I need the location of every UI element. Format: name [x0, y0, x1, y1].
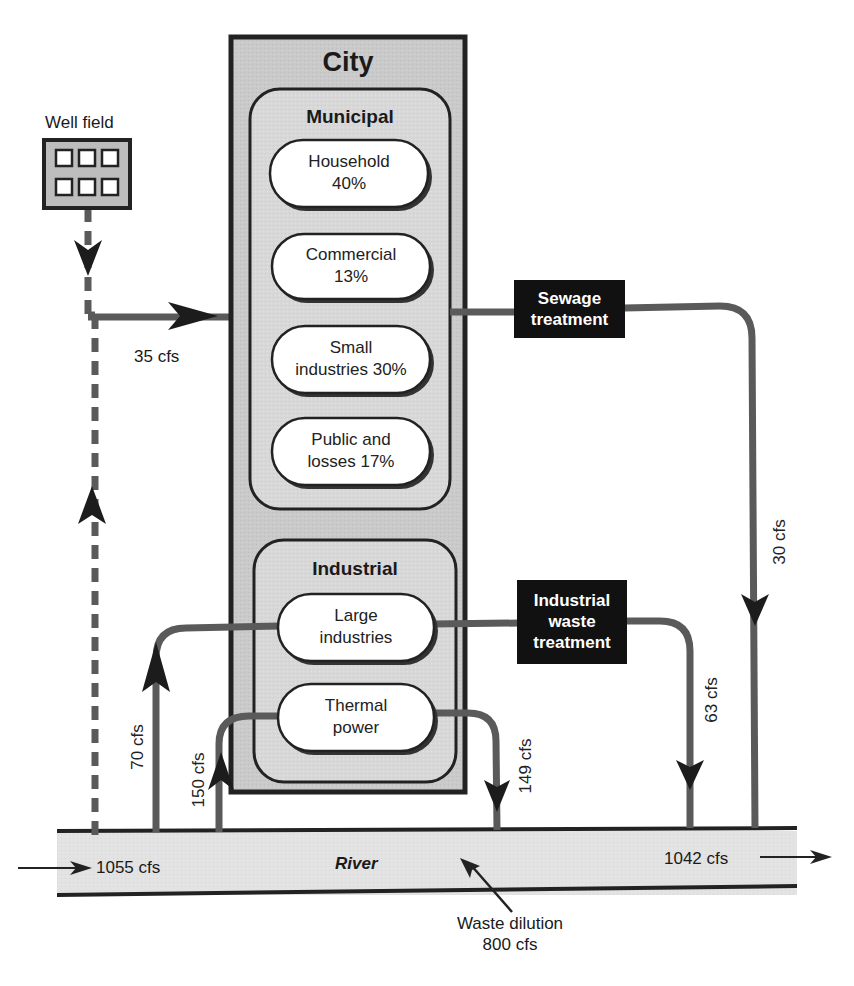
flow-river-to-large-industries: 70 cfs — [128, 717, 148, 777]
use-share: 40% — [270, 173, 428, 195]
use-name: Public and — [272, 429, 430, 451]
city-title: City — [231, 46, 465, 78]
municipal-title: Municipal — [250, 106, 450, 127]
use-name: Small — [272, 337, 430, 359]
use-name: Thermal — [278, 695, 434, 717]
use-share: 13% — [272, 266, 430, 288]
annotation-line: Waste dilution — [440, 913, 580, 934]
flow-thermal-to-river: 149 cfs — [516, 731, 536, 801]
water-flow-diagram — [0, 0, 854, 986]
use-name: Large — [278, 605, 434, 627]
thermal-power-label: Thermal power — [278, 695, 434, 739]
use-name: Household — [270, 151, 428, 173]
use-detail: power — [278, 717, 434, 739]
industrial-waste-treatment-label: Industrial waste treatment — [517, 590, 627, 653]
well-field-icon — [44, 140, 130, 208]
well-field-pipe — [88, 208, 95, 838]
flow-well-to-city: 35 cfs — [134, 346, 179, 367]
arrow-up-icon — [78, 486, 106, 524]
treatment-line: waste — [517, 611, 627, 632]
annotation-value: 800 cfs — [440, 934, 580, 955]
use-share: losses 17% — [272, 451, 430, 473]
well-field-label: Well field — [45, 112, 114, 133]
small-industries-label: Small industries 30% — [272, 337, 430, 381]
industrial-title: Industrial — [254, 558, 456, 579]
sewage-treatment-label: Sewage treatment — [514, 288, 625, 330]
river-outflow-label: 1042 cfs — [664, 848, 728, 869]
flow-sewage-to-river: 30 cfs — [770, 512, 790, 572]
waste-dilution-annotation: Waste dilution 800 cfs — [440, 913, 580, 955]
flow-river-to-thermal: 150 cfs — [189, 745, 209, 815]
treatment-line: Sewage — [514, 288, 625, 309]
household-label: Household 40% — [270, 151, 428, 195]
river-label: River — [335, 853, 378, 874]
large-industries-label: Large industries — [278, 605, 434, 649]
use-name: Commercial — [272, 244, 430, 266]
use-detail: industries — [278, 627, 434, 649]
arrow-down-icon — [74, 240, 102, 276]
use-share: industries 30% — [272, 359, 430, 381]
public-losses-label: Public and losses 17% — [272, 429, 430, 473]
commercial-label: Commercial 13% — [272, 244, 430, 288]
well-to-city-pipe — [88, 302, 250, 330]
treatment-line: treatment — [517, 632, 627, 653]
treatment-line: treatment — [514, 309, 625, 330]
treatment-line: Industrial — [517, 590, 627, 611]
river-inflow-label: 1055 cfs — [96, 857, 160, 878]
flow-industrial-waste-to-river: 63 cfs — [702, 670, 722, 730]
